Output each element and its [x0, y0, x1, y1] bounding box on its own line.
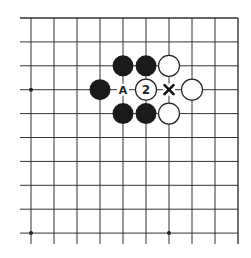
- white-stone: [159, 55, 180, 76]
- white-stone: 2: [136, 79, 157, 100]
- white-stone: [182, 79, 203, 100]
- grid-lines: [20, 18, 238, 244]
- star-point: [29, 88, 33, 92]
- star-point: [29, 231, 33, 235]
- letter-mark-a: A: [119, 84, 128, 97]
- black-stone: [136, 103, 157, 124]
- black-stone: [113, 55, 134, 76]
- star-point: [167, 231, 171, 235]
- white-stone: [159, 103, 180, 124]
- go-board: 2 A: [0, 0, 251, 258]
- move-number-label: 2: [142, 83, 150, 97]
- black-stone: [90, 79, 111, 100]
- black-stone: [113, 103, 134, 124]
- black-stone: [136, 55, 157, 76]
